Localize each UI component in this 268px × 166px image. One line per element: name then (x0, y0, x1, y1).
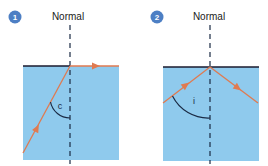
panel-1-number: 1 (13, 13, 18, 22)
panel-2-angle-label: i (193, 96, 195, 106)
panel-1: 1 Normal c (9, 11, 120, 165)
panel-2-normal-label: Normal (193, 11, 225, 22)
panel-2-water (163, 67, 259, 161)
panel-2-number: 2 (155, 13, 160, 22)
panel-1-water (23, 66, 119, 160)
refraction-diagram: 1 Normal c 2 Normal i (0, 0, 268, 166)
panel-2: 2 Normal i (151, 11, 260, 165)
panel-1-angle-label: c (58, 101, 63, 111)
panel-1-normal-label: Normal (52, 11, 84, 22)
